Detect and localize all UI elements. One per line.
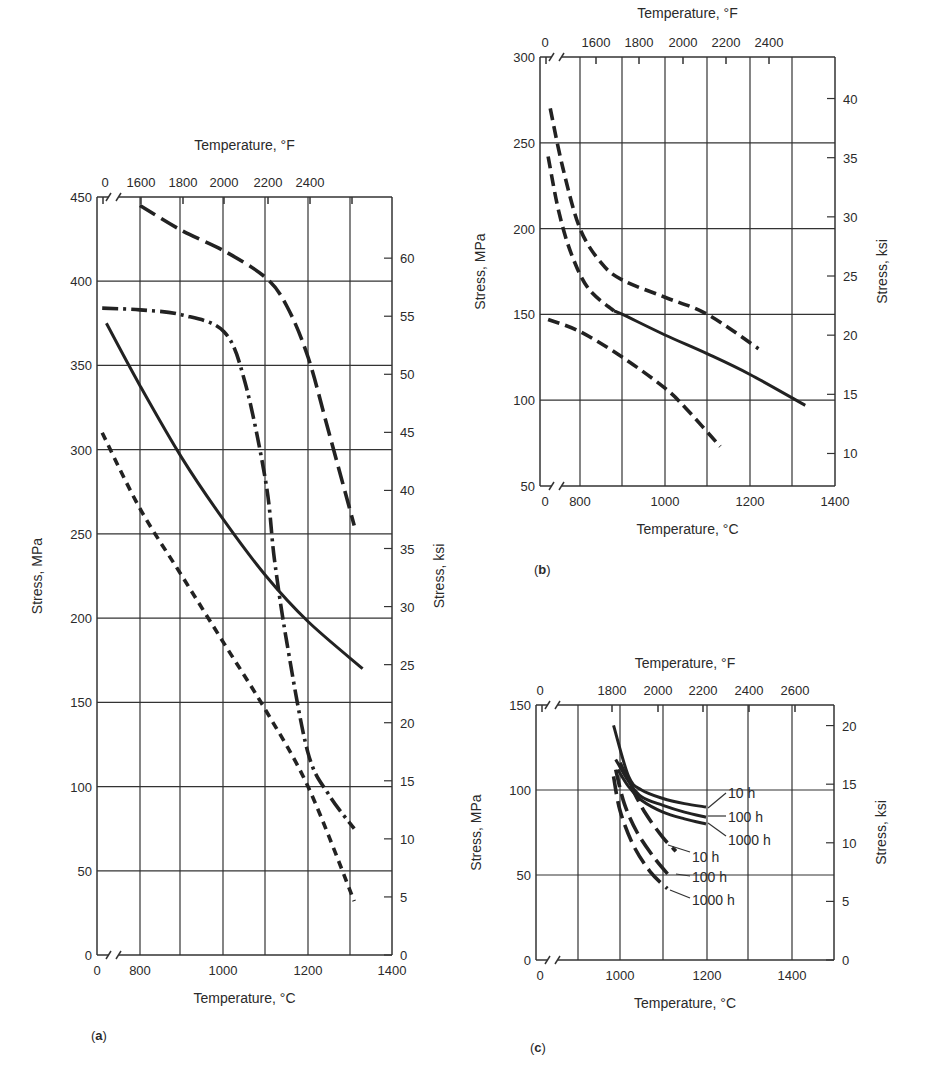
x-axis-title: Temperature, °C bbox=[636, 521, 738, 537]
x-top-tick-label: 2400 bbox=[735, 683, 764, 698]
y-right-tick-label: 30 bbox=[843, 210, 857, 225]
x-axis-ticks: 0800100012001400 bbox=[93, 963, 406, 978]
y-axis-right-title: Stress, ksi bbox=[874, 239, 890, 304]
y-right-tick-label: 40 bbox=[843, 92, 857, 107]
y-tick-label: 300 bbox=[513, 50, 535, 65]
x-axis-top-title: Temperature, °F bbox=[637, 5, 738, 21]
x-tick-label: 800 bbox=[569, 494, 591, 509]
y-axis-right-ticks: 10152025303540 bbox=[827, 92, 857, 462]
x-top-tick-label: 0 bbox=[101, 175, 108, 190]
x-top-tick-label: 2200 bbox=[689, 683, 718, 698]
panel-label: (c) bbox=[530, 1040, 546, 1055]
chart-panel-a: 0501001502002503003504004500510152025303… bbox=[29, 137, 447, 1043]
y-right-tick-label: 0 bbox=[842, 953, 849, 968]
chart-panel-c: 0501001500510152001000120014000180020002… bbox=[468, 655, 889, 1055]
y-axis-title: Stress, MPa bbox=[472, 233, 488, 309]
chart-panel-b: 5010015020025030010152025303540080010001… bbox=[472, 5, 890, 577]
y-right-tick-label: 15 bbox=[843, 387, 857, 402]
y-axis-left-ticks: 050100150 bbox=[509, 698, 531, 968]
series-label: 10 h bbox=[728, 785, 755, 801]
y-tick-label: 50 bbox=[78, 864, 92, 879]
y-axis-left-ticks: 50100150200250300 bbox=[513, 50, 535, 494]
y-right-tick-label: 15 bbox=[842, 777, 856, 792]
y-axis-right-ticks: 05101520 bbox=[826, 719, 856, 968]
x-tick-label: 1000 bbox=[606, 968, 635, 983]
y-tick-label: 200 bbox=[513, 222, 535, 237]
x-tick-label: 0 bbox=[536, 968, 543, 983]
x-axis-top-ticks: 016001800200022002400 bbox=[101, 175, 324, 190]
x-top-tick-label: 2200 bbox=[712, 35, 741, 50]
y-right-tick-label: 40 bbox=[400, 483, 414, 498]
y-right-tick-label: 20 bbox=[842, 719, 856, 734]
y-right-tick-label: 10 bbox=[843, 446, 857, 461]
y-right-tick-label: 20 bbox=[400, 716, 414, 731]
y-right-tick-label: 20 bbox=[843, 328, 857, 343]
series-line bbox=[614, 725, 706, 807]
x-tick-label: 1200 bbox=[693, 968, 722, 983]
y-tick-label: 450 bbox=[70, 190, 92, 205]
y-right-tick-label: 25 bbox=[843, 269, 857, 284]
grid bbox=[536, 705, 834, 960]
y-tick-label: 100 bbox=[509, 783, 531, 798]
series-label: 1000 h bbox=[692, 892, 735, 908]
y-tick-label: 250 bbox=[70, 527, 92, 542]
x-top-tick-label: 2400 bbox=[296, 175, 325, 190]
x-tick-label: 0 bbox=[541, 494, 548, 509]
x-top-tick-label: 1800 bbox=[169, 175, 198, 190]
x-axis-top-ticks: 018002000220024002600 bbox=[536, 683, 809, 698]
y-right-tick-label: 35 bbox=[400, 542, 414, 557]
y-axis-title: Stress, MPa bbox=[468, 794, 484, 870]
y-axis-right-title: Stress, ksi bbox=[873, 800, 889, 865]
x-tick-label: 1200 bbox=[294, 963, 323, 978]
x-tick-label: 1200 bbox=[736, 494, 765, 509]
axis-break-icon bbox=[106, 951, 121, 959]
y-tick-label: 0 bbox=[524, 953, 531, 968]
y-tick-label: 100 bbox=[513, 393, 535, 408]
x-axis-top-ticks: 016001800200022002400 bbox=[541, 35, 783, 50]
x-axis-title: Temperature, °C bbox=[634, 995, 736, 1011]
y-tick-label: 50 bbox=[517, 868, 531, 883]
axis-break-icon bbox=[545, 701, 560, 709]
panel-label: (a) bbox=[91, 1028, 107, 1043]
x-top-tick-label: 1800 bbox=[598, 683, 627, 698]
y-tick-label: 150 bbox=[509, 698, 531, 713]
y-tick-label: 150 bbox=[513, 307, 535, 322]
y-tick-label: 0 bbox=[85, 948, 92, 963]
y-right-tick-label: 35 bbox=[843, 151, 857, 166]
series-line bbox=[614, 311, 805, 405]
y-tick-label: 50 bbox=[521, 479, 535, 494]
axis-break-icon bbox=[549, 53, 564, 61]
x-tick-label: 1000 bbox=[651, 494, 680, 509]
x-tick-label: 0 bbox=[93, 963, 100, 978]
series-group bbox=[548, 108, 805, 446]
figure: 0501001502002503003504004500510152025303… bbox=[0, 0, 936, 1089]
y-tick-label: 300 bbox=[70, 443, 92, 458]
y-tick-label: 100 bbox=[70, 780, 92, 795]
x-top-tick-label: 1800 bbox=[625, 35, 654, 50]
x-top-tick-label: 2200 bbox=[254, 175, 283, 190]
y-axis-left-ticks: 050100150200250300350400450 bbox=[70, 190, 92, 963]
y-right-tick-label: 30 bbox=[400, 600, 414, 615]
y-axis-right-title: Stress, ksi bbox=[431, 544, 447, 609]
plot-frame bbox=[540, 53, 835, 490]
y-tick-label: 200 bbox=[70, 611, 92, 626]
y-right-tick-label: 25 bbox=[400, 658, 414, 673]
plot-frame bbox=[97, 193, 392, 959]
x-tick-label: 800 bbox=[129, 963, 151, 978]
y-right-tick-label: 5 bbox=[842, 894, 849, 909]
y-right-tick-label: 55 bbox=[400, 309, 414, 324]
y-right-tick-label: 0 bbox=[400, 948, 407, 963]
x-tick-label: 1400 bbox=[778, 968, 807, 983]
axis-break-icon bbox=[545, 956, 560, 964]
x-axis-top-title: Temperature, °F bbox=[194, 137, 295, 153]
x-top-tick-label: 0 bbox=[541, 35, 548, 50]
x-axis-top-title: Temperature, °F bbox=[635, 655, 736, 671]
x-top-tick-label: 2600 bbox=[781, 683, 810, 698]
y-right-tick-label: 5 bbox=[400, 890, 407, 905]
x-axis-title: Temperature, °C bbox=[193, 990, 295, 1006]
axis-break-icon bbox=[106, 193, 121, 201]
grid bbox=[540, 57, 835, 486]
x-top-tick-label: 2400 bbox=[755, 35, 784, 50]
x-top-tick-label: 2000 bbox=[210, 175, 239, 190]
series-label: 1000 h bbox=[728, 832, 771, 848]
